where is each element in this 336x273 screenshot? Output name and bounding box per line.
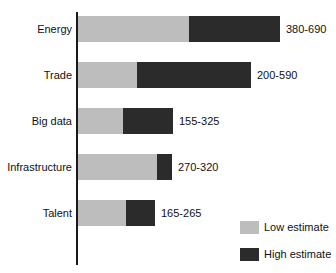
bar-track: [78, 200, 155, 226]
chart-title-cropped: [80, 0, 330, 7]
bar-segment-low[interactable]: [78, 16, 189, 42]
bar-value-label: 200-590: [257, 62, 297, 88]
category-axis-line: [76, 12, 78, 265]
legend-label-high: High estimate: [264, 245, 331, 264]
category-label: Energy: [0, 16, 72, 42]
legend-swatch-low-icon: [240, 221, 259, 234]
category-label: Trade: [0, 62, 72, 88]
bar-segment-low[interactable]: [78, 200, 126, 226]
bar-segment-high[interactable]: [126, 200, 155, 226]
category-label: Infrastructure: [0, 154, 72, 180]
bar-row: Trade200-590: [0, 62, 336, 88]
bar-value-label: 165-265: [161, 200, 201, 226]
bar-segment-high[interactable]: [189, 16, 280, 42]
category-label: Big data: [0, 108, 72, 134]
bar-row: Big data155-325: [0, 108, 336, 134]
legend-label-low: Low estimate: [264, 218, 329, 237]
bar-segment-low[interactable]: [78, 108, 123, 134]
bar-track: [78, 16, 280, 42]
bar-track: [78, 108, 173, 134]
bar-row: Infrastructure270-320: [0, 154, 336, 180]
bar-segment-low[interactable]: [78, 62, 137, 88]
bar-row: Energy380-690: [0, 16, 336, 42]
bar-value-label: 270-320: [178, 154, 218, 180]
category-label: Talent: [0, 200, 72, 226]
bar-segment-high[interactable]: [157, 154, 172, 180]
bar-value-label: 380-690: [286, 16, 326, 42]
legend-swatch-high-icon: [240, 248, 259, 261]
bar-value-label: 155-325: [179, 108, 219, 134]
bar-track: [78, 62, 251, 88]
bar-segment-low[interactable]: [78, 154, 157, 180]
bar-chart: Energy380-690Trade200-590Big data155-325…: [0, 0, 336, 273]
bar-segment-high[interactable]: [137, 62, 251, 88]
bar-segment-high[interactable]: [123, 108, 173, 134]
bar-track: [78, 154, 172, 180]
